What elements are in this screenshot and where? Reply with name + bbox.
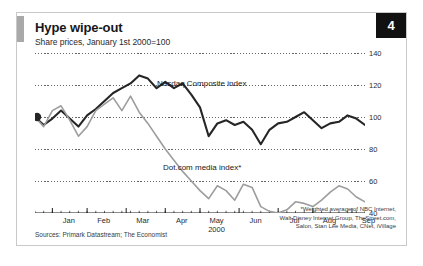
chart-figure: 4 Hype wipe-out Share prices, January 1s…: [16, 12, 407, 246]
data-series-group: [35, 75, 365, 213]
chart-canvas: [35, 53, 365, 213]
y-axis-tick-label: 80: [369, 145, 377, 154]
footnote-line-3: Salon, Stan Lee Media, CNet, iVillage: [280, 222, 396, 231]
x-axis-tick-label: Jan: [63, 216, 75, 225]
footnote-line-1: *Weighted average of NBC Internet,: [280, 205, 396, 214]
x-axis-tick-label: Feb: [97, 216, 110, 225]
series-label: Nasdaq Composite index: [157, 79, 246, 88]
series-label: Dot.com media index*: [163, 163, 241, 172]
y-axis-tick-label: 140: [369, 49, 382, 58]
footnote-line-2: Walt Disney Internet Group, TheStreet.co…: [280, 214, 396, 223]
x-axis-tick-label: Mar: [136, 216, 149, 225]
y-axis-tick-label: 60: [369, 177, 377, 186]
figure-number-badge: 4: [376, 13, 406, 38]
x-axis-tick-label: Apr: [176, 216, 188, 225]
gridlines: [35, 53, 365, 213]
x-axis-year-label: 2000: [208, 225, 225, 234]
x-axis-tick-label: Jun: [250, 216, 262, 225]
source-line: Sources: Primark Datastream; The Economi…: [35, 231, 167, 238]
y-axis-tick-label: 120: [369, 81, 382, 90]
x-axis-tick-label: May: [209, 216, 223, 225]
start-marker: [35, 113, 41, 121]
chart-title: Hype wipe-out: [35, 20, 123, 35]
footnote: *Weighted average of NBC Internet, Walt …: [280, 205, 396, 231]
chart-subtitle: Share prices, January 1st 2000=100: [35, 37, 170, 47]
title-accent-tab: [17, 16, 24, 42]
y-axis-tick-label: 100: [369, 113, 382, 122]
plot-area: [35, 53, 365, 213]
